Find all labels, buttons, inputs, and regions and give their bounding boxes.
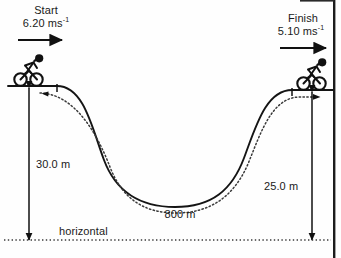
cyclist-trajectory-dotted xyxy=(40,92,321,214)
finish-speed-exponent: -1 xyxy=(318,24,324,31)
frame-border xyxy=(300,0,335,258)
finish-speed-value: 5.10 ms xyxy=(278,25,318,37)
start-speed-value: 6.20 ms xyxy=(23,17,63,29)
horizontal-span-label: 800 m xyxy=(152,208,208,221)
height-right-label: 25.0 m xyxy=(264,180,298,193)
finish-label: Finish xyxy=(272,12,334,25)
platform-ticks xyxy=(57,84,292,96)
height-left-label: 30.0 m xyxy=(36,158,70,171)
start-speed-label: 6.20 ms-1 xyxy=(8,17,84,30)
diagram-canvas: Start 6.20 ms-1 Finish 5.10 ms-1 30.0 m … xyxy=(0,0,341,258)
cyclist-icon-right xyxy=(297,58,326,90)
baseline-label: horizontal xyxy=(59,225,108,238)
start-label: Start xyxy=(8,4,84,17)
finish-speed-label: 5.10 ms-1 xyxy=(268,25,334,38)
start-speed-exponent: -1 xyxy=(63,16,69,23)
cyclist-icon-left xyxy=(14,54,43,86)
